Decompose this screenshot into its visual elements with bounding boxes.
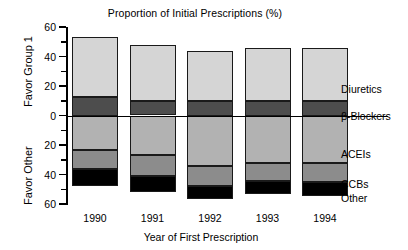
y-tick-major <box>59 174 66 176</box>
bar-segment[interactable] <box>187 51 233 100</box>
legend-label-diuretics: Diuretics <box>341 83 382 95</box>
bar-segment[interactable] <box>245 48 291 101</box>
bar-segment[interactable] <box>72 169 118 187</box>
legend-label-aceis: ACEIs <box>341 148 371 160</box>
y-tick-label: 20 <box>30 140 56 151</box>
legend-label-other: Other <box>341 192 367 204</box>
zero-baseline <box>66 116 388 118</box>
x-tick-label: 1994 <box>295 212 355 224</box>
bar-segment[interactable] <box>187 186 233 199</box>
y-tick-label: 0 <box>30 111 56 122</box>
y-tick-label: 40 <box>30 52 56 63</box>
bar-segment[interactable] <box>72 37 118 97</box>
bar-segment[interactable] <box>130 176 176 192</box>
bar-segment[interactable] <box>187 101 233 116</box>
x-tick-label: 1990 <box>65 212 125 224</box>
chart-figure: Proportion of Initial Prescriptions (%) … <box>0 0 408 250</box>
bar-segment[interactable] <box>72 150 118 168</box>
y-tick-label: 60 <box>30 199 56 210</box>
legend-label-blockers: β-Blockers <box>341 110 391 122</box>
bar-segment[interactable] <box>245 101 291 116</box>
y-axis-label-top: Favor Group 1 <box>22 36 34 107</box>
bar-segment[interactable] <box>130 116 176 156</box>
y-tick-major <box>59 115 66 117</box>
y-tick-major <box>59 26 66 28</box>
bar-segment[interactable] <box>72 97 118 115</box>
bar-segment[interactable] <box>187 116 233 166</box>
bar-segment[interactable] <box>130 155 176 176</box>
bar-segment[interactable] <box>130 101 176 115</box>
bar-segment[interactable] <box>130 45 176 102</box>
y-tick-label: 40 <box>30 170 56 181</box>
y-tick-label: 60 <box>30 22 56 33</box>
y-tick-major <box>59 203 66 205</box>
y-tick-label: 20 <box>30 81 56 92</box>
bar-segment[interactable] <box>245 181 291 194</box>
y-tick-major <box>59 85 66 87</box>
bar-segment[interactable] <box>187 166 233 186</box>
chart-title: Proportion of Initial Prescriptions (%) <box>0 7 390 19</box>
x-tick-label: 1993 <box>238 212 298 224</box>
bar-segment[interactable] <box>72 116 118 151</box>
x-tick-label: 1991 <box>123 212 183 224</box>
x-axis-title: Year of First Prescription <box>66 231 336 243</box>
y-tick-major <box>59 56 66 58</box>
legend-label-ccbs: CCBs <box>341 178 368 190</box>
bar-segment[interactable] <box>245 116 291 164</box>
x-tick-label: 1992 <box>180 212 240 224</box>
y-tick-major <box>59 144 66 146</box>
bar-segment[interactable] <box>245 163 291 181</box>
